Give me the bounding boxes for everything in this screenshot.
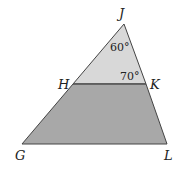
vertex-label-g: G — [15, 148, 25, 163]
lower-trapezoid-hklg — [22, 84, 167, 144]
vertex-label-k: K — [149, 77, 161, 92]
vertex-label-j: J — [116, 6, 125, 21]
angle-label-k: 70° — [120, 70, 140, 83]
vertex-label-l: L — [163, 148, 173, 163]
angle-label-j: 60° — [110, 41, 130, 54]
vertex-label-h: H — [57, 77, 70, 92]
triangle-diagram: J H K G L 60° 70° — [0, 0, 183, 173]
